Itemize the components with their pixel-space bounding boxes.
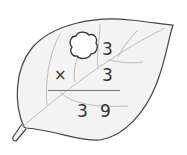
- leaf-illustration: 3 × 3 3 9: [0, 0, 187, 155]
- row2-ones-digit: 3: [102, 65, 113, 85]
- multiply-sign: ×: [54, 66, 67, 84]
- result-ones-digit: 9: [100, 101, 111, 121]
- row1-ones-digit: 3: [102, 39, 113, 59]
- result-tens-digit: 3: [77, 101, 88, 121]
